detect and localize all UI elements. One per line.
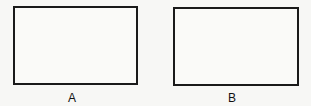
panel-label-a: A xyxy=(62,91,82,105)
rectangle-panel-a xyxy=(13,6,138,85)
rectangle-panel-b xyxy=(173,7,299,86)
panel-label-b: B xyxy=(222,91,242,105)
